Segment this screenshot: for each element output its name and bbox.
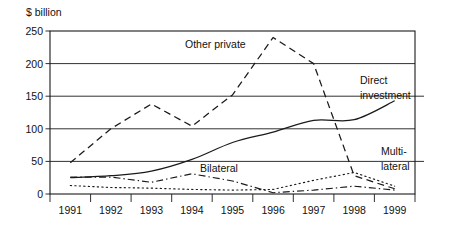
annotation-multilateral-line1: Multi-	[381, 145, 407, 157]
xtick-label-1994: 1994	[180, 204, 204, 216]
annotation-direct-investment-line2: investment	[360, 89, 411, 101]
y-axis-unit-label: $ billion	[26, 6, 62, 18]
ytick-label-100: 100	[25, 123, 43, 135]
xtick-label-1992: 1992	[99, 204, 123, 216]
annotation-other-private: Other private	[185, 38, 246, 50]
line-chart: $ billion 250 200 150 100 50 0	[0, 0, 451, 232]
xtick-label-1997: 1997	[302, 204, 326, 216]
y-tickmarks	[46, 31, 51, 194]
ytick-label-150: 150	[25, 90, 43, 102]
y-tick-labels: 250 200 150 100 50 0	[25, 25, 43, 200]
chart-page: $ billion 250 200 150 100 50 0	[0, 0, 451, 232]
ytick-label-50: 50	[31, 155, 43, 167]
xtick-label-1996: 1996	[261, 204, 285, 216]
xtick-label-1995: 1995	[221, 204, 245, 216]
xtick-label-1993: 1993	[140, 204, 164, 216]
ytick-label-0: 0	[37, 188, 43, 200]
xtick-label-1998: 1998	[343, 204, 367, 216]
ytick-label-250: 250	[25, 25, 43, 37]
xtick-label-1991: 1991	[59, 204, 83, 216]
xtick-label-1999: 1999	[383, 204, 407, 216]
x-tick-labels: 1991 1992 1993 1994 1995 1996 1997 1998 …	[59, 204, 407, 216]
annotation-leaders	[415, 96, 424, 161]
x-tickmarks	[50, 194, 415, 202]
annotation-bilateral: Bilateral	[200, 162, 238, 174]
annotation-multilateral-line2: lateral	[381, 160, 410, 172]
annotation-direct-investment-line1: Direct	[360, 74, 388, 86]
ytick-label-200: 200	[25, 58, 43, 70]
